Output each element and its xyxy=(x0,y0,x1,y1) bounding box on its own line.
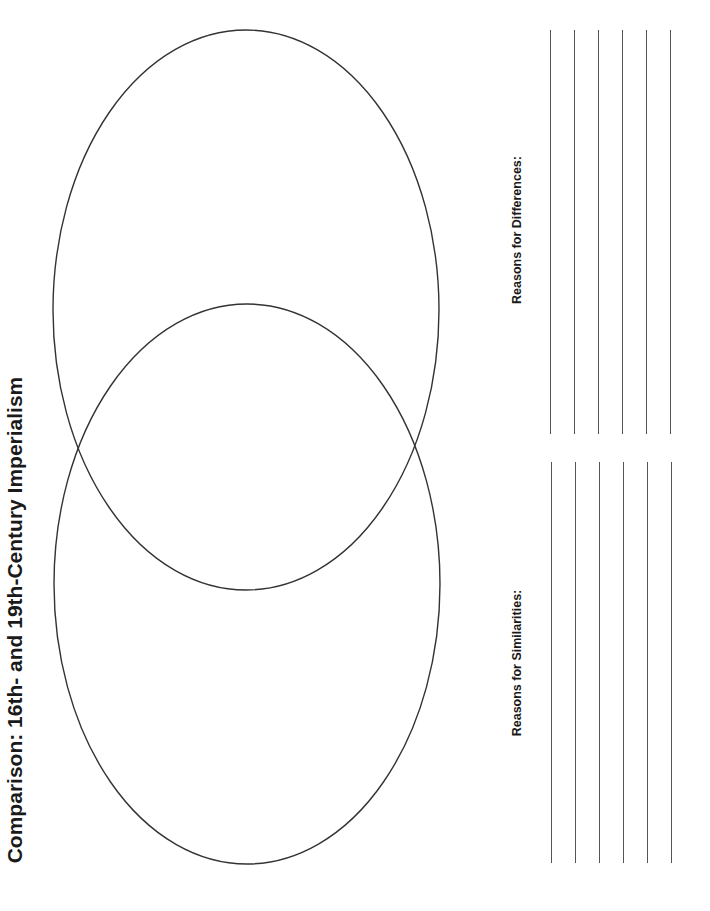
writing-line[interactable] xyxy=(574,30,575,434)
writing-line[interactable] xyxy=(550,30,551,434)
venn-diagram xyxy=(0,0,710,911)
venn-bottom-ellipse[interactable] xyxy=(54,304,440,864)
writing-line[interactable] xyxy=(551,462,552,863)
writing-line[interactable] xyxy=(575,462,576,863)
writing-line[interactable] xyxy=(623,462,624,863)
writing-line[interactable] xyxy=(647,462,648,863)
writing-line[interactable] xyxy=(598,30,599,434)
writing-line[interactable] xyxy=(671,462,672,863)
writing-line[interactable] xyxy=(622,30,623,434)
venn-top-ellipse[interactable] xyxy=(53,30,439,590)
writing-line[interactable] xyxy=(670,30,671,434)
writing-line[interactable] xyxy=(599,462,600,863)
similarities-label: Reasons for Similarities: xyxy=(510,590,524,737)
differences-label: Reasons for Differences: xyxy=(510,156,524,304)
writing-line[interactable] xyxy=(646,30,647,434)
